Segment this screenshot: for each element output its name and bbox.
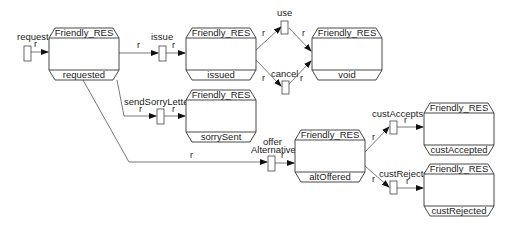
transition-label: request — [17, 31, 49, 42]
transition-sendSorryLetter[interactable]: sendSorryLetter — [124, 96, 192, 124]
edge-label: r — [262, 73, 265, 83]
edge-label: r — [372, 174, 375, 184]
transition-label: issue — [151, 31, 173, 42]
edge-label: r — [302, 28, 305, 38]
edge-label: r — [300, 73, 303, 83]
state-name-label: custAccepted — [430, 144, 487, 155]
state-name-label: void — [338, 69, 355, 80]
edge-label: r — [137, 40, 140, 50]
state-name-label: sorrySent — [201, 131, 242, 142]
edge-label: r — [262, 28, 265, 38]
state-requested[interactable]: Friendly_RES requested — [49, 27, 119, 80]
transition-label: sendSorryLetter — [124, 96, 192, 107]
state-issued[interactable]: Friendly_RES issued — [186, 27, 256, 80]
edge-label: r — [372, 132, 375, 142]
state-name-label: altOffered — [309, 171, 351, 182]
transition-cancel[interactable]: cancel — [271, 68, 298, 94]
state-type-label: Friendly_RES — [55, 27, 114, 38]
transition-label: cancel — [271, 68, 298, 79]
state-custRejected[interactable]: Friendly_RES custRejected — [424, 163, 494, 216]
transition-label-line2: Alternative — [251, 144, 296, 155]
transition-label: custAccepts — [372, 108, 423, 119]
state-diagram: r r r r r r r r r r r r r — [0, 0, 510, 226]
state-type-label: Friendly_RES — [301, 129, 360, 140]
state-type-label: Friendly_RES — [192, 89, 251, 100]
edge-label: r — [190, 150, 193, 160]
edge-issued-to-use — [256, 27, 281, 50]
transition-use[interactable]: use — [277, 7, 292, 34]
transition-label: use — [277, 7, 292, 18]
state-type-label: Friendly_RES — [318, 27, 377, 38]
state-type-label: Friendly_RES — [430, 102, 489, 113]
diagram-svg: r r r r r r r r r r r r r — [0, 0, 510, 226]
state-name-label: issued — [207, 69, 234, 80]
state-altOffered[interactable]: Friendly_RES altOffered — [295, 129, 365, 182]
transition-offerAlternative[interactable]: offer Alternative — [251, 136, 296, 171]
edge-use-to-void — [289, 28, 311, 51]
transition-custAccepts[interactable]: custAccepts — [372, 108, 423, 134]
state-type-label: Friendly_RES — [430, 163, 489, 174]
edge-altOffered-to-custAccepts — [365, 127, 389, 152]
transition-label: custRejects — [379, 168, 428, 179]
state-name-label: custRejected — [432, 205, 487, 216]
transition-custRejects[interactable]: custRejects — [379, 168, 428, 194]
transition-issue[interactable]: issue — [151, 31, 173, 61]
state-sorrySent[interactable]: Friendly_RES sorrySent — [186, 89, 256, 142]
state-type-label: Friendly_RES — [192, 27, 251, 38]
state-custAccepted[interactable]: Friendly_RES custAccepted — [424, 102, 494, 155]
state-void[interactable]: Friendly_RES void — [312, 27, 382, 80]
states: Friendly_RES requested Friendly_RES issu… — [49, 27, 494, 216]
state-name-label: requested — [63, 69, 105, 80]
